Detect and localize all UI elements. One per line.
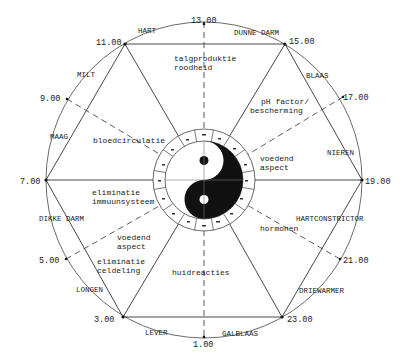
hour-19: 19.00 [365,177,391,187]
organ-dikke-darm: DIKKE DARM [39,215,85,223]
hour-21: 21.00 [343,256,369,266]
organ-lever: LEVER [145,329,168,337]
hour-13: 13.00 [191,16,217,26]
label-ph-factor: pH factor/ [261,97,309,106]
hour-11: 11.00 [96,38,122,48]
hour-15: 15.00 [289,37,315,47]
label-voedend-left: voedend [117,233,151,242]
hour-23: 23.00 [287,315,313,325]
hour-17: 17.00 [343,93,369,103]
organ-galblaas: GALBLAAS [222,330,259,338]
label-aspect-left: aspect [117,242,146,251]
label-hormonen: hormonen [260,224,299,233]
label-talgproduktie: talgproduktie [174,54,237,63]
label-eliminatie-immuun-2: immuunsysteem [92,197,155,206]
organ-milt: MILT [77,71,96,79]
hour-3: 3.00 [94,315,114,325]
hour-9: 9.00 [40,94,60,104]
label-bescherming: bescherming [250,106,303,115]
organ-hart: HART [138,27,157,35]
hour-5: 5.00 [39,256,59,266]
label-huidreacties: huidreacties [172,268,230,277]
label-voedend-right: voedend [260,154,294,163]
organ-driewarmer: DRIEWARMER [299,287,345,295]
organ-clock-diagram: 13.00 15.00 17.00 19.00 21.00 23.00 1.00… [0,0,405,364]
label-roodheid: roodheid [174,63,213,72]
label-aspect-right: aspect [260,163,289,172]
organ-dunne-darm: DUNNE DARM [234,29,280,37]
organ-blaas: BLAAS [306,72,329,80]
hour-1: 1.00 [193,340,213,350]
organ-hartconstrictor: HARTCONSTRICTOR [296,215,364,223]
label-bloedcirculatie: bloedcirculatie [93,136,165,145]
label-eliminatie-immuun-1: eliminatie [92,188,140,197]
organ-longen: LONGEN [76,286,103,294]
label-eliminatie-celdeling-1: eliminatie [97,257,145,266]
hour-7: 7.00 [20,177,40,187]
label-eliminatie-celdeling-2: celdeling [97,266,140,275]
organ-nieren: NIEREN [327,149,354,157]
organ-maag: MAAG [50,133,69,141]
